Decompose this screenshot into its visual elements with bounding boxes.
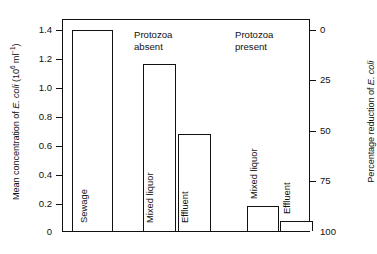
y-left-title-species: E. coli [11, 85, 21, 109]
y-left-ticklabel-1.0: 1.0 [39, 82, 52, 93]
annotation-protozoa-absent: Protozoa absent [134, 29, 172, 53]
y-left-ticklabel-1.2: 1.2 [39, 53, 52, 64]
y-right-ticklabel-0: 0 [320, 24, 325, 35]
y-right-tick-0 [310, 30, 316, 31]
y-right-tick-25 [310, 80, 316, 81]
y-left-title-units-mid: ml [11, 54, 21, 66]
y-left-title-units-pre: (10 [11, 69, 21, 84]
y-right-tick-50 [310, 131, 316, 132]
y-right-ticklabel-50: 50 [320, 125, 331, 136]
y-right-ticklabel-25: 25 [320, 74, 331, 85]
y-left-ticklabel-0.2: 0.2 [39, 198, 52, 209]
annotation-protozoa-present-line2: present [235, 41, 273, 53]
y-left-title-prefix: Mean concentration of [11, 109, 21, 200]
y-left-title-units-post: ) [11, 44, 21, 47]
y-left-title-exp-minus-one: −1 [9, 47, 16, 54]
y-left-ticklabel-0.6: 0.6 [39, 140, 52, 151]
bar-label-mixed-liquor-protozoa-absent: Mixed liquor [144, 172, 155, 223]
y-left-ticklabel-0.8: 0.8 [39, 111, 52, 122]
y-left-title-exp-six: 6 [9, 66, 16, 69]
bar-mixed-liquor-protozoa-present[interactable] [247, 206, 279, 231]
plot-area: Sewage Mixed liquor Effluent Mixed liquo… [62, 19, 310, 232]
y-right-ticklabel-75: 75 [320, 175, 331, 186]
bar-label-effluent-protozoa-absent: Effluent [179, 191, 190, 223]
y-right-ticklabel-100: 100 [320, 226, 336, 237]
y-right-title-prefix: Percentage reduction of [366, 85, 376, 183]
bar-effluent-protozoa-present[interactable] [280, 221, 313, 231]
y-axis-left-title: Mean concentration of E. coli (106 ml−1) [12, 12, 22, 232]
y-left-ticklabel-0: 0 [47, 226, 52, 237]
annotation-protozoa-present-line1: Protozoa [235, 29, 273, 41]
bar-label-effluent-protozoa-present: Effluent [281, 182, 292, 214]
bar-label-sewage: Sewage [78, 189, 89, 223]
annotation-protozoa-absent-line2: absent [134, 41, 172, 53]
y-right-tick-75 [310, 181, 316, 182]
y-left-ticklabel-1.4: 1.4 [39, 24, 52, 35]
bar-label-mixed-liquor-protozoa-present: Mixed liquor [248, 148, 259, 199]
y-axis-right-title: Percentage reduction of E. coli [367, 12, 377, 232]
y-right-title-species: E. coli [366, 61, 376, 85]
y-left-ticklabel-0.4: 0.4 [39, 169, 52, 180]
annotation-protozoa-present: Protozoa present [235, 29, 273, 53]
annotation-protozoa-absent-line1: Protozoa [134, 29, 172, 41]
